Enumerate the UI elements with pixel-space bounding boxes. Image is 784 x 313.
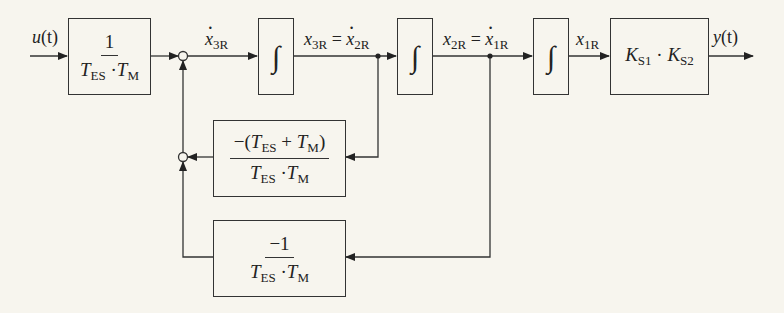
feedback-2-denominator: TES ·TM (246, 258, 313, 284)
x2r-x1r-dot-label: x2R = x1R (443, 30, 509, 51)
input-gain-denominator: TES ·TM (76, 56, 143, 82)
output-gain-expression: KS1 · KS2 (625, 44, 694, 69)
integral-icon: ∫ (547, 40, 555, 74)
x3r-dot-label: x3R (205, 30, 228, 51)
integrator-block-2: ∫ (397, 18, 433, 95)
feedback-2-numerator: −1 (265, 234, 293, 258)
feedback-block-1: −(TES + TM) TES ·TM (213, 120, 346, 197)
output-gain-block: KS1 · KS2 (610, 18, 709, 95)
branch-point-2 (487, 53, 492, 58)
branch-point-1 (375, 53, 380, 58)
input-gain-block: 1 TES ·TM (68, 18, 151, 95)
feedback-block-2: −1 TES ·TM (213, 220, 346, 297)
feedback-1-denominator: TES ·TM (246, 159, 313, 185)
integrator-block-3: ∫ (533, 18, 569, 95)
summing-junction-2 (179, 153, 188, 162)
feedback-1-numerator: −(TES + TM) (230, 132, 329, 159)
summing-junction-1 (179, 52, 188, 61)
feedback-1-fraction: −(TES + TM) TES ·TM (230, 132, 329, 185)
output-signal-label: y(t) (713, 28, 738, 46)
input-signal-label: u(t) (32, 28, 58, 46)
input-gain-fraction: 1 TES ·TM (76, 32, 143, 82)
input-gain-numerator: 1 (101, 32, 119, 56)
x1r-label: x1R (576, 30, 599, 51)
integral-icon: ∫ (272, 40, 280, 74)
integrator-block-1: ∫ (258, 18, 294, 95)
integral-icon: ∫ (411, 40, 419, 74)
x3r-x2r-dot-label: x3R = x2R (304, 30, 370, 51)
feedback-2-fraction: −1 TES ·TM (246, 234, 313, 284)
